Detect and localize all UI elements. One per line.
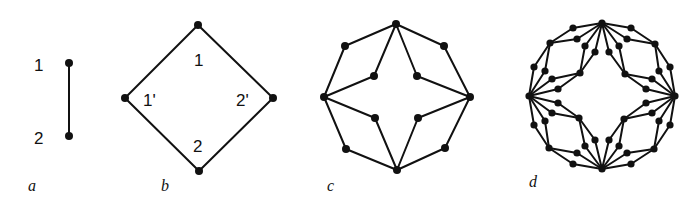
panel-label-c: c bbox=[327, 177, 334, 194]
graph-vertex bbox=[642, 99, 649, 106]
graph-vertex bbox=[530, 121, 537, 128]
graph-vertex bbox=[320, 93, 328, 101]
graph-vertex bbox=[648, 75, 655, 82]
graph-figure: 12 11'2'2 abcd bbox=[0, 0, 700, 211]
graph-vertex bbox=[414, 114, 422, 122]
graph-vertex bbox=[65, 132, 73, 140]
panel-b-square-graph: 11'2'2 bbox=[121, 21, 277, 175]
graph-vertex bbox=[569, 24, 576, 31]
vertex-label: 1' bbox=[143, 91, 156, 110]
graph-vertex bbox=[598, 165, 605, 172]
graph-vertex bbox=[413, 72, 421, 80]
graph-edge bbox=[125, 98, 199, 171]
graph-vertex bbox=[655, 117, 662, 124]
graph-vertex bbox=[370, 72, 378, 80]
graph-vertex bbox=[393, 166, 401, 174]
graph-vertex bbox=[605, 48, 612, 55]
graph-vertex bbox=[623, 35, 630, 42]
graph-vertex bbox=[548, 109, 555, 116]
graph-vertex bbox=[371, 114, 379, 122]
graph-vertex bbox=[581, 42, 588, 49]
graph-vertex bbox=[621, 70, 628, 77]
vertex-label: 2 bbox=[34, 129, 43, 148]
graph-vertex bbox=[627, 160, 634, 167]
graph-vertex bbox=[581, 142, 588, 149]
graph-vertex bbox=[627, 24, 634, 31]
graph-vertex bbox=[671, 92, 678, 99]
panel-d-recursive-graph bbox=[525, 19, 678, 172]
graph-vertex bbox=[620, 115, 627, 122]
vertex-label: 1 bbox=[194, 51, 203, 70]
vertex-label: 2' bbox=[236, 91, 249, 110]
panel-a-path-graph: 12 bbox=[34, 56, 73, 148]
graph-vertex bbox=[194, 21, 202, 29]
graph-vertex bbox=[650, 145, 657, 152]
graph-vertex bbox=[342, 145, 350, 153]
graph-vertex bbox=[666, 121, 673, 128]
graph-edge bbox=[444, 46, 470, 97]
graph-vertex bbox=[546, 39, 553, 46]
graph-vertex bbox=[441, 144, 449, 152]
graph-vertex bbox=[605, 136, 612, 143]
graph-vertex bbox=[615, 42, 622, 49]
graph-vertex bbox=[615, 142, 622, 149]
vertex-label: 2 bbox=[193, 137, 202, 156]
graph-vertex bbox=[591, 136, 598, 143]
vertex-label: 1 bbox=[34, 56, 43, 75]
graph-vertex bbox=[576, 69, 583, 76]
graph-vertex bbox=[65, 59, 73, 67]
graph-vertex bbox=[541, 67, 548, 74]
graph-vertex bbox=[548, 75, 555, 82]
graph-vertex bbox=[655, 67, 662, 74]
panel-labels: abcd bbox=[28, 173, 538, 194]
graph-vertex bbox=[569, 160, 576, 167]
graph-vertex bbox=[440, 42, 448, 50]
graph-vertex bbox=[530, 63, 537, 70]
graph-edge bbox=[198, 25, 273, 98]
panel-label-a: a bbox=[28, 177, 36, 194]
graph-edge bbox=[417, 76, 470, 97]
graph-vertex bbox=[545, 144, 552, 151]
graph-vertex bbox=[591, 48, 598, 55]
graph-vertex bbox=[573, 149, 580, 156]
graph-vertex bbox=[623, 149, 630, 156]
graph-vertex bbox=[554, 85, 561, 92]
graph-vertex bbox=[466, 93, 474, 101]
graph-vertex bbox=[341, 42, 349, 50]
graph-vertex bbox=[573, 35, 580, 42]
graph-edge bbox=[125, 25, 198, 98]
graph-vertex bbox=[666, 63, 673, 70]
graph-vertex bbox=[269, 94, 277, 102]
graph-vertex bbox=[554, 99, 561, 106]
graph-vertex bbox=[541, 117, 548, 124]
panel-label-d: d bbox=[529, 173, 538, 190]
graph-vertex bbox=[195, 167, 203, 175]
graph-vertex bbox=[575, 114, 582, 121]
graph-vertex bbox=[525, 92, 532, 99]
graph-vertex bbox=[121, 94, 129, 102]
panel-label-b: b bbox=[161, 177, 169, 194]
graph-vertex bbox=[598, 19, 605, 26]
graph-vertex bbox=[642, 85, 649, 92]
panel-c-octagon-star-graph bbox=[320, 20, 474, 174]
graph-vertex bbox=[648, 109, 655, 116]
graph-vertex bbox=[651, 40, 658, 47]
graph-vertex bbox=[392, 20, 400, 28]
